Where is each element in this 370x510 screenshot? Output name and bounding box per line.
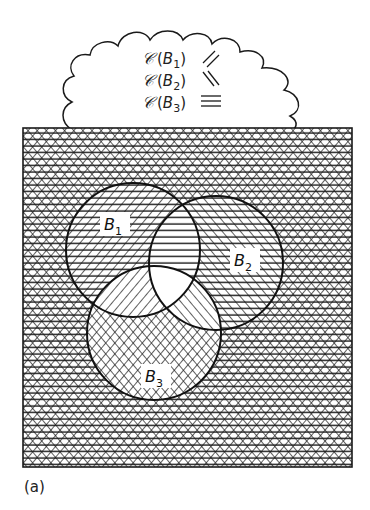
- set-label-b1: B1: [100, 212, 130, 238]
- legend-label-b3: (B3): [157, 94, 186, 115]
- complement-b3-hatch: [23, 128, 352, 467]
- figure-caption: (a): [24, 478, 45, 496]
- venn-diagram-figure: 𝒞 (B1) 𝒞 (B2) 𝒞 (B3): [0, 0, 370, 510]
- set-label-b2: B2: [230, 248, 260, 274]
- universe-set: [23, 128, 352, 467]
- set-label-b3: B3: [141, 364, 171, 390]
- legend-label-b2: (B2): [157, 72, 186, 93]
- legend-label-b1: (B1): [157, 50, 186, 71]
